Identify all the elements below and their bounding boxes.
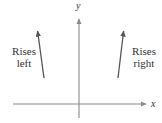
right-branch-arrow: [118, 31, 124, 78]
polynomial-end-behavior-figure: Rises left Rises right y x: [0, 0, 162, 123]
rises-right-annotation: Rises right: [124, 45, 162, 69]
y-axis-label: y: [76, 1, 80, 11]
rises-left-annotation: Rises left: [4, 45, 44, 69]
rises-right-line1: Rises: [124, 45, 162, 57]
rises-left-line1: Rises: [4, 45, 44, 57]
right-branch-line: [118, 31, 124, 78]
rises-left-line2: left: [4, 57, 44, 69]
x-axis-label: x: [151, 99, 155, 109]
rises-right-line2: right: [124, 57, 162, 69]
